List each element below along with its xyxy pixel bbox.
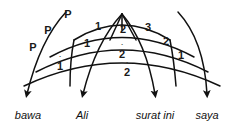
node-value: 1 [95, 21, 101, 32]
arc-level-4 [24, 63, 220, 86]
node-value: 3 [145, 22, 151, 33]
node-number: ˙ 2 [124, 62, 130, 78]
node-number: 2 [120, 27, 126, 35]
node-number: 1 [84, 41, 90, 49]
arc-dependency-diagram: P P P 1 2 3 1 2 ˙ 2 1 ˙ 1 ˙ 2 bawa Ali s… [0, 0, 236, 129]
node-value: 2 [119, 49, 125, 60]
terminal-word-bawa: bawa [15, 110, 41, 121]
node-value: 1 [57, 61, 63, 72]
node-number: 3 [145, 25, 151, 33]
node-number: 1 [178, 53, 184, 61]
node-value: 1 [178, 50, 184, 61]
relation-label-p-1: P [29, 42, 36, 53]
terminal-word-surat-ini: surat ini [136, 110, 175, 121]
node-value: 2 [124, 67, 130, 78]
node-number: 2 [163, 39, 169, 47]
node-value: 1 [84, 38, 90, 49]
relation-label-p-2: P [44, 25, 51, 36]
node-number: ˙ 1 [57, 56, 63, 72]
node-number: 1 [95, 24, 101, 32]
relation-label-p-3: P [64, 9, 71, 20]
terminal-word-saya: saya [195, 110, 218, 121]
terminal-word-ali: Ali [76, 110, 88, 121]
node-number: ˙ 2 [119, 44, 125, 60]
node-value: 2 [163, 36, 169, 47]
node-value: 2 [120, 24, 126, 35]
